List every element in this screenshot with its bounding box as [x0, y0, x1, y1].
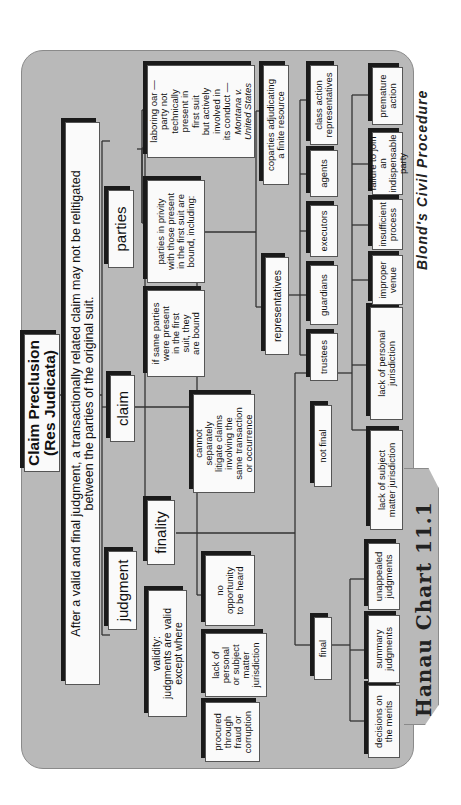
- not-final-subject-matter: lack of subject matter jurisdiction: [370, 430, 403, 530]
- chart-title: Claim Preclusion (Res Judicata): [24, 334, 60, 472]
- final-item-summary: summary judgments: [368, 615, 400, 683]
- not-final-node: not final: [314, 405, 332, 487]
- final-item-unappealed: unappealed judgments: [368, 543, 400, 610]
- laboring-oar-text: laboring oar — party not technically pre…: [149, 80, 233, 142]
- exception-no-opportunity: no opportunity to be heard: [205, 555, 255, 626]
- final-node: final: [314, 617, 332, 680]
- not-final-venue: improper venue: [372, 255, 403, 305]
- rep-agents: agents: [310, 150, 338, 197]
- branch-parties: parties: [108, 190, 134, 268]
- laboring-oar-node: laboring oar — party not technically pre…: [147, 65, 255, 158]
- rep-guardians: guardians: [310, 265, 338, 325]
- rep-trustees: trustees: [310, 333, 338, 381]
- rep-executors: executors: [310, 205, 338, 257]
- branch-judgment: judgment: [108, 551, 137, 630]
- final-item-decisions: decisions on the merits: [368, 685, 400, 758]
- hanau-chart-label: Hanau Chart 11.1: [412, 501, 436, 717]
- finality-node: finality: [147, 500, 175, 565]
- exception-jurisdiction: lack of personal or subject matter juris…: [205, 633, 267, 697]
- not-final-process: insufficient process: [372, 199, 403, 250]
- privity-node: parties in privity with those present in…: [147, 180, 205, 283]
- claim-description: cannot separately litigate claims involv…: [193, 394, 255, 493]
- representatives-node: representatives: [265, 257, 289, 355]
- coparties-node: coparties adjudicating a finite resource: [263, 65, 289, 185]
- exception-fraud: procured through fraud or corruption: [205, 702, 260, 762]
- publisher-label: Blond's Civil Procedure: [414, 90, 430, 270]
- not-final-joinder: failure to join an indispensable party: [372, 132, 403, 195]
- same-parties-node: if same parties were present in the firs…: [147, 290, 205, 377]
- rep-class-action: class action representatives: [310, 65, 338, 145]
- not-final-premature: premature action: [372, 67, 403, 125]
- rule-statement: After a valid and final judgment, a tran…: [65, 122, 100, 685]
- validity-node: validity: judgments are valid except whe…: [148, 590, 187, 717]
- branch-claim: claim: [110, 375, 135, 442]
- chart-canvas: Claim Preclusion (Res Judicata) After a …: [0, 0, 461, 805]
- not-final-personal: lack of personal jurisdiction: [370, 307, 403, 420]
- laboring-oar-case: Montana v. United States: [233, 83, 254, 140]
